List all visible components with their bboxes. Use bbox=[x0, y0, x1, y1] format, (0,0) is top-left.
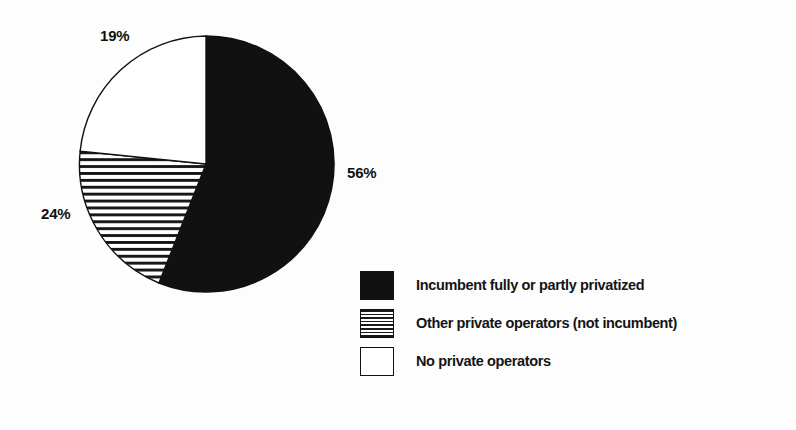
legend-label-incumbent-privatized: Incumbent fully or partly privatized bbox=[416, 277, 644, 293]
pie-slice-no-private-operators bbox=[80, 36, 206, 164]
horizontal-stripe-swatch-icon bbox=[360, 309, 394, 338]
pie-value-label-no-private-operators: 19% bbox=[100, 27, 129, 44]
pie-svg bbox=[78, 34, 336, 294]
pie-value-label-incumbent-privatized: 56% bbox=[347, 164, 376, 181]
pie-chart-figure: 56% 24% 19% Incumbent fully or partly pr… bbox=[0, 0, 796, 430]
solid-black-swatch-icon bbox=[360, 271, 394, 300]
legend-item-no-private-operators: No private operators bbox=[360, 342, 780, 380]
legend-item-incumbent-privatized: Incumbent fully or partly privatized bbox=[360, 266, 780, 304]
legend-label-no-private-operators: No private operators bbox=[416, 353, 551, 369]
chart-legend: Incumbent fully or partly privatized Oth… bbox=[360, 266, 780, 380]
pie-value-label-other-private-operators: 24% bbox=[41, 205, 70, 222]
legend-label-other-private-operators: Other private operators (not incumbent) bbox=[416, 315, 677, 331]
legend-item-other-private-operators: Other private operators (not incumbent) bbox=[360, 304, 780, 342]
pie-graphic bbox=[78, 34, 336, 294]
white-swatch-icon bbox=[360, 347, 394, 376]
